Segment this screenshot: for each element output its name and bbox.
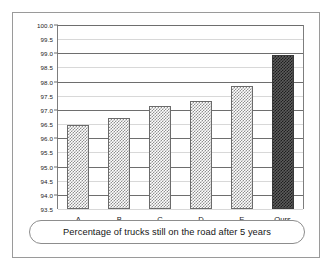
plot-area: 100.099.599.098.598.097.597.096.596.095.… xyxy=(57,25,304,209)
bar-group: A xyxy=(58,25,99,209)
y-axis-tick-label: 98.0 xyxy=(41,78,53,85)
y-axis-tick-label: 99.0 xyxy=(41,50,53,57)
gridline-minor xyxy=(58,209,303,210)
chart-figure: 100.099.599.098.598.097.597.096.596.095.… xyxy=(12,12,320,258)
bar xyxy=(190,101,212,209)
y-axis-tick-label: 96.5 xyxy=(41,121,53,128)
caption-text: Percentage of trucks still on the road a… xyxy=(63,227,271,237)
bar-group: E xyxy=(221,25,262,209)
bar xyxy=(231,86,253,209)
caption-capsule: Percentage of trucks still on the road a… xyxy=(29,220,305,244)
y-axis-tick-label: 93.5 xyxy=(41,206,53,213)
y-axis-tick-label: 99.5 xyxy=(41,36,53,43)
y-axis-tick-label: 96.0 xyxy=(41,135,53,142)
y-axis-tick-label: 94.5 xyxy=(41,177,53,184)
y-axis-tick-label: 95.5 xyxy=(41,149,53,156)
y-axis-tick-label: 97.0 xyxy=(41,106,53,113)
y-axis-tick-label: 97.5 xyxy=(41,92,53,99)
bar-series: ABCDEOurs xyxy=(58,25,303,209)
bar xyxy=(149,106,171,209)
y-axis-tick-label: 95.0 xyxy=(41,163,53,170)
bar-group: Ours xyxy=(262,25,303,209)
y-axis-tick-label: 94.0 xyxy=(41,191,53,198)
bar xyxy=(67,125,89,209)
bar xyxy=(272,55,294,209)
bar xyxy=(108,118,130,209)
y-axis-tick-label: 100.0 xyxy=(37,22,53,29)
bar-group: D xyxy=(181,25,222,209)
bar-group: B xyxy=(99,25,140,209)
bar-group: C xyxy=(140,25,181,209)
y-axis-tick-label: 98.5 xyxy=(41,64,53,71)
